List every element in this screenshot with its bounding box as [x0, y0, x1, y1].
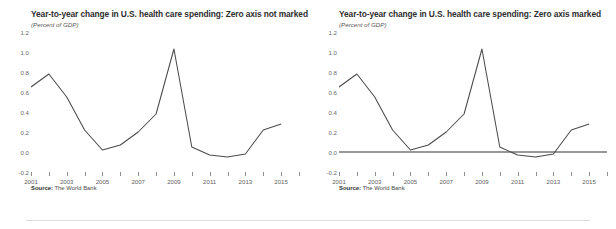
x-tick-mark — [536, 172, 537, 176]
data-series-line — [31, 49, 281, 157]
x-tick-mark — [120, 172, 121, 176]
x-tick-label: 2015 — [582, 178, 596, 185]
x-tick-mark — [428, 172, 429, 176]
x-tick-label: 2013 — [547, 178, 561, 185]
line-plot-left — [31, 32, 299, 174]
y-tick-label: 0.0 — [329, 149, 337, 156]
y-tick-label: 0.2 — [21, 129, 29, 136]
x-tick-mark — [571, 172, 572, 176]
x-tick-label: 2011 — [511, 178, 524, 185]
x-tick-mark — [281, 172, 282, 176]
source-value: The World Bank — [54, 185, 96, 191]
x-tick-mark — [174, 172, 175, 176]
x-tick-mark — [245, 172, 246, 176]
y-tick-label: 0.8 — [21, 69, 29, 76]
x-tick-label: 2013 — [239, 178, 253, 185]
x-tick-label: 2001 — [24, 178, 38, 185]
chart-panel-zero-axis-marked: Year-to-year change in U.S. health care … — [308, 0, 616, 208]
x-tick-mark — [518, 172, 519, 176]
line-plot-right — [339, 32, 607, 174]
y-tick-label: -0.2 — [326, 169, 337, 176]
y-tick-label: 0.8 — [329, 69, 337, 76]
x-tick-mark — [446, 172, 447, 176]
y-axis-labels-right: -0.20.00.20.40.60.81.01.2 — [313, 32, 337, 172]
plot-area-left: -0.20.00.20.40.60.81.01.2 20012003200520… — [31, 32, 299, 180]
x-tick-mark — [357, 172, 358, 176]
chart-subtitle: (Percent of GDP) — [31, 20, 300, 29]
x-tick-mark — [228, 172, 229, 176]
x-tick-label: 2009 — [167, 178, 181, 185]
y-tick-label: 0.6 — [329, 89, 337, 96]
source-label: Source: — [31, 185, 53, 191]
x-tick-label: 2007 — [131, 178, 145, 185]
x-tick-mark — [67, 172, 68, 176]
plot-area-right: -0.20.00.20.40.60.81.01.2 20012003200520… — [339, 32, 607, 180]
x-tick-mark — [85, 172, 86, 176]
x-tick-mark — [339, 172, 340, 176]
x-tick-mark — [49, 172, 50, 176]
x-tick-label: 2009 — [475, 178, 489, 185]
y-tick-label: -0.2 — [18, 169, 29, 176]
page-title-right: Year-to-year change in U.S. health care … — [339, 9, 608, 19]
source-label-right: Source: — [339, 185, 361, 191]
x-tick-label: 2003 — [368, 178, 382, 185]
source-note-left: Source: The World Bank — [31, 185, 97, 191]
x-tick-mark — [210, 172, 211, 176]
x-tick-mark — [410, 172, 411, 176]
source-value-right: The World Bank — [362, 185, 404, 191]
y-tick-label: 0.4 — [329, 109, 337, 116]
x-tick-label: 2005 — [404, 178, 418, 185]
x-tick-mark — [263, 172, 264, 176]
y-tick-label: 0.0 — [21, 149, 29, 156]
x-tick-mark — [156, 172, 157, 176]
x-tick-mark — [500, 172, 501, 176]
y-tick-label: 1.0 — [329, 49, 337, 56]
x-tick-mark — [393, 172, 394, 176]
source-note-right: Source: The World Bank — [339, 185, 405, 191]
chart-subtitle-right: (Percent of GDP) — [339, 20, 608, 29]
x-tick-mark — [375, 172, 376, 176]
x-tick-mark — [299, 172, 300, 176]
x-tick-label: 2011 — [203, 178, 216, 185]
y-tick-label: 0.4 — [21, 109, 29, 116]
x-tick-mark — [138, 172, 139, 176]
y-tick-label: 1.2 — [21, 29, 29, 36]
x-tick-label: 2001 — [332, 178, 346, 185]
x-tick-mark — [192, 172, 193, 176]
y-tick-label: 0.6 — [21, 89, 29, 96]
x-tick-label: 2007 — [439, 178, 453, 185]
x-tick-mark — [102, 172, 103, 176]
x-tick-mark — [589, 172, 590, 176]
x-tick-label: 2005 — [96, 178, 110, 185]
x-tick-label: 2015 — [274, 178, 288, 185]
x-tick-mark — [607, 172, 608, 176]
y-axis-labels-left: -0.20.00.20.40.60.81.01.2 — [5, 32, 29, 172]
y-tick-label: 1.0 — [21, 49, 29, 56]
chart-pair: Year-to-year change in U.S. health care … — [0, 0, 616, 208]
x-tick-mark — [482, 172, 483, 176]
y-tick-label: 1.2 — [329, 29, 337, 36]
x-tick-mark — [464, 172, 465, 176]
page-title: Year-to-year change in U.S. health care … — [31, 9, 300, 19]
chart-panel-zero-axis-not-marked: Year-to-year change in U.S. health care … — [0, 0, 308, 208]
x-tick-label: 2003 — [60, 178, 74, 185]
x-tick-mark — [31, 172, 32, 176]
x-tick-mark — [553, 172, 554, 176]
y-tick-label: 0.2 — [329, 129, 337, 136]
bottom-divider — [26, 220, 590, 221]
data-series-line — [339, 49, 589, 157]
